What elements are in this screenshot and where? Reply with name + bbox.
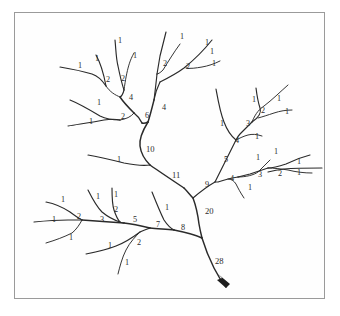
- magnitude-label: 1: [256, 153, 260, 162]
- magnitude-label: 1: [205, 38, 209, 47]
- branch-group-bottom-center: [86, 192, 202, 274]
- magnitude-label: 1: [255, 132, 259, 141]
- magnitude-label: 6: [145, 111, 149, 120]
- branch-group-top-center: [148, 32, 220, 122]
- magnitude-label: 1: [274, 147, 278, 156]
- magnitude-label: 11: [172, 170, 180, 180]
- magnitude-labels: 1111112222114411261011111121341594131211…: [52, 32, 301, 267]
- magnitude-label: 1: [297, 157, 301, 166]
- trunk-main: [184, 188, 202, 238]
- magnitude-label: 1: [114, 190, 118, 199]
- magnitude-label: 1: [117, 155, 121, 164]
- branch-group-left-mid: [68, 100, 142, 126]
- magnitude-label: 3: [258, 170, 262, 179]
- magnitude-label: 2: [278, 169, 282, 178]
- magnitude-label: 1: [78, 61, 82, 70]
- figure-page: 1111112222114411261011111121341594131211…: [0, 0, 340, 316]
- magnitude-label: 2: [186, 62, 190, 71]
- magnitude-label: 1: [69, 233, 73, 242]
- trunk-center: [88, 122, 184, 188]
- magnitude-label: 10: [146, 144, 155, 154]
- magnitude-label: 4: [129, 93, 133, 102]
- magnitude-label: 2: [114, 205, 118, 214]
- magnitude-label: 2: [77, 212, 81, 221]
- magnitude-label: 2: [121, 112, 125, 121]
- magnitude-label: 5: [133, 215, 137, 224]
- magnitude-label: 1: [252, 95, 256, 104]
- magnitude-label: 7: [156, 220, 160, 229]
- magnitude-label: 8: [181, 223, 185, 232]
- magnitude-label: 1: [180, 32, 184, 41]
- magnitude-label: 2: [261, 106, 265, 115]
- magnitude-label: 1: [118, 36, 122, 45]
- magnitude-label: 1: [165, 203, 169, 212]
- magnitude-label: 1: [248, 183, 252, 192]
- magnitude-label: 2: [163, 59, 167, 68]
- magnitude-label: 3: [246, 119, 250, 128]
- magnitude-label: 1: [297, 168, 301, 177]
- magnitude-label: 1: [96, 192, 100, 201]
- magnitude-label: 28: [215, 256, 224, 266]
- magnitude-label: 2: [121, 74, 125, 83]
- magnitude-label: 1: [61, 195, 65, 204]
- magnitude-label: 1: [277, 94, 281, 103]
- magnitude-label: 4: [235, 136, 239, 145]
- network-drawing: 1111112222114411261011111121341594131211…: [0, 0, 340, 316]
- magnitude-label: 5: [224, 155, 228, 164]
- magnitude-label: 1: [220, 119, 224, 128]
- magnitude-label: 1: [52, 215, 56, 224]
- magnitude-label: 3: [100, 215, 104, 224]
- magnitude-label: 1: [89, 117, 93, 126]
- magnitude-label: 1: [133, 51, 137, 60]
- magnitude-label: 1: [210, 47, 214, 56]
- magnitude-label: 4: [230, 174, 234, 183]
- magnitude-label: 1: [95, 54, 99, 63]
- magnitude-label: 20: [205, 206, 214, 216]
- magnitude-label: 1: [97, 98, 101, 107]
- magnitude-label: 2: [106, 75, 110, 84]
- magnitude-label: 4: [162, 103, 166, 112]
- magnitude-label: 1: [212, 59, 216, 68]
- magnitude-label: 2: [137, 238, 141, 247]
- magnitude-label: 1: [125, 258, 129, 267]
- magnitude-label: 1: [108, 241, 112, 250]
- magnitude-label: 9: [205, 180, 209, 189]
- magnitude-label: 1: [285, 107, 289, 116]
